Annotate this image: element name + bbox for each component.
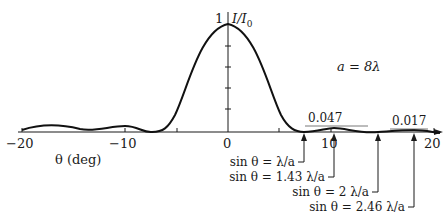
y-axis-label: I/I0 — [232, 12, 252, 29]
y-axis-label-subscript: 0 — [247, 19, 253, 29]
annotation-sin-2-lambda: sin θ = 2 λ/a — [292, 186, 369, 198]
peak1-value-label: 0.047 — [308, 112, 342, 124]
x-tick-label-minus10: −10 — [109, 137, 136, 150]
x-tick-label-zero: 0 — [223, 137, 231, 150]
annotation-arrowheads-icon — [301, 133, 417, 141]
x-tick-label-20: 20 — [424, 137, 441, 150]
annotation-sin-lambda: sin θ = λ/a — [230, 156, 295, 168]
y-axis-label-text: I/I — [232, 11, 247, 26]
y-tick-label-one: 1 — [215, 12, 223, 25]
chart-canvas — [0, 0, 443, 216]
parameter-label: a = 8λ — [337, 60, 380, 73]
annotation-sin-1-43-lambda: sin θ = 1.43 λ/a — [229, 171, 325, 183]
x-axis-label: θ (deg) — [55, 153, 101, 166]
intensity-curve — [22, 24, 440, 133]
annotation-sin-2-46-lambda: sin θ = 2.46 λ/a — [309, 201, 405, 213]
x-tick-label-10: 10 — [321, 137, 338, 150]
peak2-value-label: 0.017 — [392, 115, 426, 127]
x-tick-label-minus20: −20 — [6, 137, 33, 150]
